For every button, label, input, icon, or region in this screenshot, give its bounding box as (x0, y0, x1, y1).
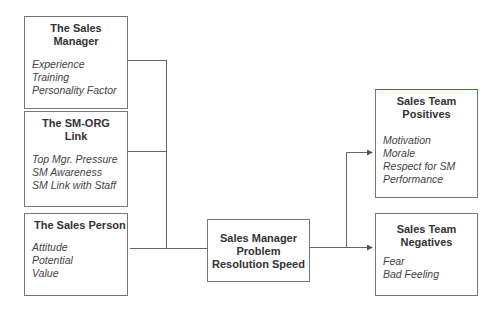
box-items: AttitudePotentialValue (25, 241, 127, 280)
box-title: The SM-ORGLink (25, 117, 127, 143)
box-title: The SalesManager (25, 22, 127, 48)
box-title: Sales TeamPositives (376, 95, 477, 121)
box-title: Sales ManagerProblemResolution Speed (208, 232, 309, 271)
sales-manager-box: The SalesManager ExperienceTrainingPerso… (24, 16, 128, 109)
box-items: FearBad Feeling (376, 255, 477, 281)
positives-box: Sales TeamPositives MotivationMoraleResp… (375, 89, 478, 198)
box-items: ExperienceTrainingPersonality Factor (25, 58, 127, 97)
negatives-box: Sales TeamNegatives FearBad Feeling (375, 213, 478, 296)
box-title: Sales TeamNegatives (376, 223, 477, 249)
box-items: MotivationMoraleRespect for SMPerformanc… (376, 134, 477, 186)
box-items: Top Mgr. PressureSM AwarenessSM Link wit… (25, 153, 127, 192)
box-title: The Sales Person (25, 219, 127, 232)
resolution-speed-box: Sales ManagerProblemResolution Speed (207, 219, 310, 282)
sm-org-link-box: The SM-ORGLink Top Mgr. PressureSM Aware… (24, 111, 128, 207)
sales-person-box: The Sales Person AttitudePotentialValue (24, 213, 128, 296)
